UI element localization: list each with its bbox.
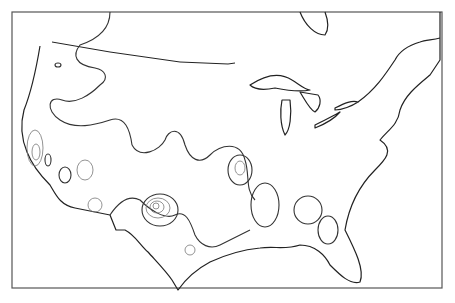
contour-small-1: [55, 63, 61, 67]
lake-superior: [250, 75, 310, 90]
contour-east-4: [318, 216, 338, 244]
lake-michigan: [281, 100, 291, 135]
contour-east-ring: [235, 161, 245, 175]
contour-east-3: [294, 196, 322, 224]
contour-west-6: [88, 198, 102, 212]
contour-west-3: [45, 154, 51, 166]
contour-east-2: [251, 183, 279, 227]
hudson-bay-edge: [300, 12, 328, 35]
lake-erie: [315, 112, 340, 128]
contour-map: [0, 0, 455, 303]
contour-west-4: [59, 167, 71, 183]
contour-west-1: [27, 130, 43, 166]
contour-ring-3: [153, 203, 159, 209]
lake-ontario: [335, 101, 358, 110]
contour-central: [132, 131, 255, 200]
st-lawrence: [358, 38, 440, 102]
us-outline: [22, 12, 440, 290]
contour-west-2: [32, 144, 40, 160]
contour-south: [110, 198, 250, 247]
contour-northwest: [50, 12, 132, 145]
lake-huron: [300, 92, 320, 112]
map-frame: [12, 12, 442, 288]
contour-west-5: [77, 160, 93, 180]
contour-loop-1: [142, 194, 178, 226]
contour-small-2: [185, 245, 195, 255]
contour-east-1: [228, 155, 252, 185]
